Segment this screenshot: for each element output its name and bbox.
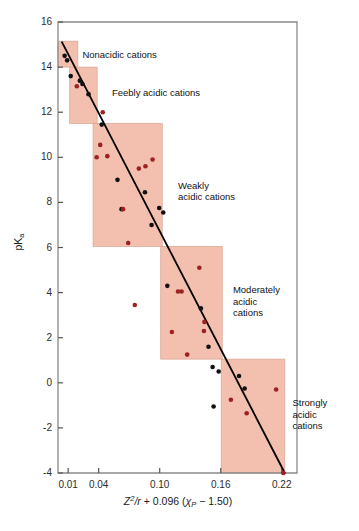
y-axis-title: pKa <box>12 222 26 262</box>
y-axis-title-sub: a <box>17 234 26 238</box>
x-title-plus-term: + 0.096 ( <box>141 495 186 507</box>
y-axis-tick-label: 16 <box>20 17 52 27</box>
x-axis-tick-label: 0.22 <box>258 480 306 490</box>
data-point-black-points-5 <box>86 92 91 97</box>
x-title-tail: − 1.50) <box>196 495 232 507</box>
data-point-black-points-16 <box>210 365 215 370</box>
data-point-black-points-17 <box>216 369 221 374</box>
y-axis-tick-label: 4 <box>20 288 52 298</box>
data-point-red-points-21 <box>281 471 286 476</box>
data-point-black-points-14 <box>199 306 204 311</box>
data-point-black-points-19 <box>242 386 247 391</box>
data-point-red-points-10 <box>197 265 202 270</box>
region-shade-weakly-acidic <box>93 123 162 246</box>
trend-line-layer <box>62 42 285 473</box>
data-point-red-points-3 <box>94 155 99 160</box>
figure-container: 1614121086420-2-40.010.040.100.160.22 No… <box>0 0 359 531</box>
region-label-feebly-acidic: Feebly acidic cations <box>112 87 200 99</box>
y-axis-tick-label: 2 <box>20 333 52 343</box>
data-point-black-points-7 <box>115 178 120 183</box>
scatter-plot <box>0 0 359 531</box>
data-point-black-points-0 <box>62 54 67 59</box>
data-point-red-points-9 <box>126 241 131 246</box>
y-axis-tick-label: -2 <box>20 423 52 433</box>
data-point-black-points-2 <box>68 74 73 79</box>
data-point-red-points-16 <box>170 330 175 335</box>
y-axis-tick-label: 0 <box>20 378 52 388</box>
data-point-black-points-12 <box>149 223 154 228</box>
data-point-red-points-2 <box>98 143 103 148</box>
data-point-black-points-11 <box>161 210 166 215</box>
data-point-red-points-6 <box>143 164 148 169</box>
data-point-red-points-7 <box>137 166 142 171</box>
data-point-red-points-12 <box>179 289 184 294</box>
y-axis-tick-label: 12 <box>20 107 52 117</box>
data-point-red-points-4 <box>105 154 110 159</box>
data-point-red-points-8 <box>121 207 126 212</box>
region-shade-feebly-acidic <box>70 67 97 123</box>
y-axis-tick-label: 8 <box>20 197 52 207</box>
data-point-red-points-20 <box>274 387 279 392</box>
y-axis-tick-label: -4 <box>20 468 52 478</box>
data-point-red-points-14 <box>202 320 207 325</box>
y-axis-title-main: pK <box>12 238 24 251</box>
data-point-red-points-18 <box>229 397 234 402</box>
x-axis-tick-label: 0.10 <box>136 480 184 490</box>
data-point-black-points-8 <box>143 190 148 195</box>
data-point-black-points-4 <box>80 82 85 87</box>
data-point-black-points-20 <box>211 404 216 409</box>
data-point-red-points-19 <box>244 411 249 416</box>
x-axis-title: Z2/r + 0.096 (χP − 1.50) <box>58 494 298 509</box>
region-label-nonacidic: Nonacidic cations <box>82 49 156 61</box>
data-point-black-points-6 <box>99 122 104 127</box>
data-point-black-points-10 <box>157 206 162 211</box>
data-point-black-points-1 <box>65 58 70 63</box>
region-shade-moderately-acidic <box>161 246 223 359</box>
data-point-red-points-13 <box>132 303 137 308</box>
region-label-weakly-acidic: Weakly acidic cations <box>178 180 235 203</box>
data-point-red-points-15 <box>202 329 207 334</box>
data-point-black-points-18 <box>237 374 242 379</box>
data-point-black-points-15 <box>206 344 211 349</box>
data-point-red-points-17 <box>185 352 190 357</box>
y-axis-tick-label: 14 <box>20 62 52 72</box>
region-label-moderately-acidic: Moderately acidic cations <box>233 284 280 319</box>
region-label-strongly-acidic: Strongly acidic cations <box>292 397 327 432</box>
data-point-red-points-1 <box>100 110 105 115</box>
x-axis-tick-label: 0.16 <box>197 480 245 490</box>
data-point-black-points-13 <box>165 284 170 289</box>
data-point-red-points-0 <box>75 84 80 89</box>
trend-line <box>62 42 285 473</box>
y-axis-tick-label: 10 <box>20 152 52 162</box>
x-axis-tick-label: 0.04 <box>75 480 123 490</box>
data-point-red-points-5 <box>150 157 155 162</box>
